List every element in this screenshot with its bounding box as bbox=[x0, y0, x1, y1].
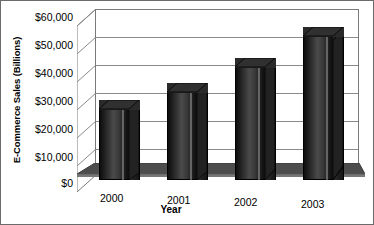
bar-top-face bbox=[303, 27, 344, 37]
bar-highlight bbox=[258, 67, 260, 180]
bar-front-face bbox=[99, 108, 130, 180]
chart-figure: E-Commerce Sales (Billions) $60,000 $50,… bbox=[0, 0, 374, 225]
bar-highlight bbox=[190, 92, 192, 180]
x-axis-title: Year bbox=[101, 204, 241, 215]
bar-highlight bbox=[326, 36, 328, 180]
y-tick-label: $20,000 bbox=[19, 124, 73, 134]
bar-top-face bbox=[167, 83, 208, 93]
bar-side-face bbox=[129, 100, 140, 180]
bar-front-face bbox=[303, 35, 334, 180]
y-tick-label: $10,000 bbox=[19, 152, 73, 162]
y-tick-label: $40,000 bbox=[19, 68, 73, 78]
y-tick-label: $0 bbox=[19, 178, 73, 188]
x-tick-label: 2000 bbox=[100, 192, 123, 204]
bar-2001 bbox=[167, 92, 197, 180]
bar-2000 bbox=[99, 109, 129, 180]
bar-2002 bbox=[235, 67, 265, 180]
y-tick-label: $60,000 bbox=[19, 12, 73, 22]
bar-side-face bbox=[197, 83, 208, 180]
bar-side-face bbox=[265, 58, 276, 180]
y-tick-label: $30,000 bbox=[19, 96, 73, 106]
x-tick-label: 2003 bbox=[301, 198, 324, 210]
y-axis-tick-labels: $60,000 $50,000 $40,000 $30,000 $20,000 … bbox=[17, 1, 73, 225]
plot-area bbox=[77, 9, 365, 191]
bar-front-face bbox=[167, 91, 198, 180]
bar-front-face bbox=[235, 66, 266, 180]
bar-top-face bbox=[235, 58, 276, 68]
bar-side-face bbox=[333, 27, 344, 180]
bar-2003 bbox=[303, 36, 333, 180]
bar-highlight bbox=[122, 109, 124, 180]
bar-top-face bbox=[99, 100, 140, 110]
y-tick-label: $50,000 bbox=[19, 40, 73, 50]
